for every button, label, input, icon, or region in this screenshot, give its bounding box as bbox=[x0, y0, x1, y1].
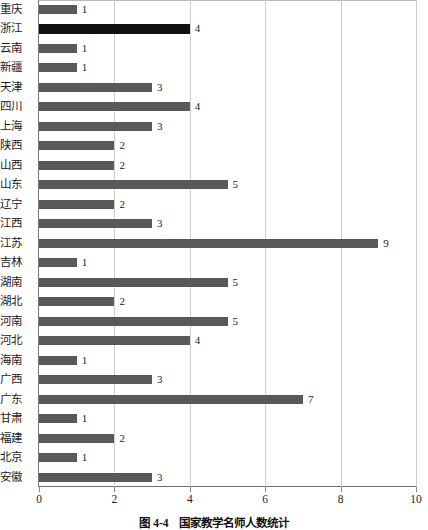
bar-row: 新疆1 bbox=[0, 58, 428, 78]
bar-江西 bbox=[39, 219, 152, 228]
category-label-北京: 北京 bbox=[0, 448, 34, 468]
bar-row: 福建2 bbox=[0, 429, 428, 449]
bar-value-陕西: 2 bbox=[119, 136, 125, 156]
category-label-河南: 河南 bbox=[0, 312, 34, 332]
category-label-山东: 山东 bbox=[0, 175, 34, 195]
category-label-云南: 云南 bbox=[0, 39, 34, 59]
x-tick-mark-8 bbox=[341, 487, 342, 492]
category-label-江苏: 江苏 bbox=[0, 234, 34, 254]
bar-湖北 bbox=[39, 297, 114, 306]
bar-row: 辽宁2 bbox=[0, 195, 428, 215]
bar-甘肃 bbox=[39, 414, 77, 423]
bar-value-天津: 3 bbox=[157, 78, 163, 98]
bar-row: 上海3 bbox=[0, 117, 428, 137]
x-tick-label-6: 6 bbox=[253, 493, 277, 505]
bar-row: 江西3 bbox=[0, 214, 428, 234]
bar-value-海南: 1 bbox=[82, 351, 88, 371]
x-axis: 0246810 bbox=[0, 487, 428, 513]
bar-重庆 bbox=[39, 5, 77, 14]
bar-value-安徽: 3 bbox=[157, 468, 163, 488]
category-label-辽宁: 辽宁 bbox=[0, 195, 34, 215]
bar-value-河南: 5 bbox=[233, 312, 239, 332]
bar-四川 bbox=[39, 102, 190, 111]
bar-value-河北: 4 bbox=[195, 331, 201, 351]
bar-广西 bbox=[39, 375, 152, 384]
bar-row: 重庆1 bbox=[0, 0, 428, 20]
bar-row: 湖南5 bbox=[0, 273, 428, 293]
bar-辽宁 bbox=[39, 200, 114, 209]
category-label-四川: 四川 bbox=[0, 97, 34, 117]
bar-row: 河北4 bbox=[0, 331, 428, 351]
bar-row: 安徽3 bbox=[0, 468, 428, 488]
bar-row: 云南1 bbox=[0, 39, 428, 59]
bar-row: 四川4 bbox=[0, 97, 428, 117]
bar-上海 bbox=[39, 122, 152, 131]
category-label-山西: 山西 bbox=[0, 156, 34, 176]
category-label-天津: 天津 bbox=[0, 78, 34, 98]
bar-云南 bbox=[39, 44, 77, 53]
category-label-广西: 广西 bbox=[0, 370, 34, 390]
bar-吉林 bbox=[39, 258, 77, 267]
bar-河北 bbox=[39, 336, 190, 345]
bar-value-江西: 3 bbox=[157, 214, 163, 234]
category-label-湖北: 湖北 bbox=[0, 292, 34, 312]
x-tick-mark-10 bbox=[416, 487, 417, 492]
x-tick-label-4: 4 bbox=[178, 493, 202, 505]
bar-广东 bbox=[39, 395, 303, 404]
category-label-上海: 上海 bbox=[0, 117, 34, 137]
bar-chart-figure: 重庆1浙江4云南1新疆1天津3四川4上海3陕西2山西2山东5辽宁2江西3江苏9吉… bbox=[0, 0, 428, 530]
bar-河南 bbox=[39, 317, 228, 326]
bar-row: 陕西2 bbox=[0, 136, 428, 156]
category-label-江西: 江西 bbox=[0, 214, 34, 234]
category-label-新疆: 新疆 bbox=[0, 58, 34, 78]
x-tick-mark-2 bbox=[114, 487, 115, 492]
bar-value-福建: 2 bbox=[119, 429, 125, 449]
category-label-浙江: 浙江 bbox=[0, 19, 34, 39]
x-tick-label-2: 2 bbox=[102, 493, 126, 505]
bar-row: 山西2 bbox=[0, 156, 428, 176]
bar-北京 bbox=[39, 453, 77, 462]
bar-row: 吉林1 bbox=[0, 253, 428, 273]
bar-row: 海南1 bbox=[0, 351, 428, 371]
category-label-安徽: 安徽 bbox=[0, 468, 34, 488]
bar-江苏 bbox=[39, 239, 378, 248]
bar-浙江 bbox=[39, 24, 190, 34]
category-label-陕西: 陕西 bbox=[0, 136, 34, 156]
category-label-海南: 海南 bbox=[0, 351, 34, 371]
bar-row: 北京1 bbox=[0, 448, 428, 468]
bar-value-山东: 5 bbox=[233, 175, 239, 195]
bar-value-湖北: 2 bbox=[119, 292, 125, 312]
bar-value-四川: 4 bbox=[195, 97, 201, 117]
x-tick-mark-4 bbox=[190, 487, 191, 492]
category-label-吉林: 吉林 bbox=[0, 253, 34, 273]
bar-海南 bbox=[39, 356, 77, 365]
category-label-河北: 河北 bbox=[0, 331, 34, 351]
bar-row: 天津3 bbox=[0, 78, 428, 98]
x-tick-label-0: 0 bbox=[27, 493, 51, 505]
figure-title: 国家教学名师人数统计 bbox=[179, 517, 289, 529]
figure-number: 图 4-4 bbox=[139, 517, 168, 529]
x-tick-mark-0 bbox=[39, 487, 40, 492]
bar-row: 湖北2 bbox=[0, 292, 428, 312]
bar-value-广西: 3 bbox=[157, 370, 163, 390]
bar-山西 bbox=[39, 161, 114, 170]
bar-陕西 bbox=[39, 141, 114, 150]
x-tick-label-10: 10 bbox=[404, 493, 428, 505]
category-label-重庆: 重庆 bbox=[0, 0, 34, 20]
x-tick-mark-6 bbox=[265, 487, 266, 492]
bar-row: 甘肃1 bbox=[0, 409, 428, 429]
bar-山东 bbox=[39, 180, 228, 189]
bar-value-广东: 7 bbox=[308, 390, 314, 410]
bar-value-浙江: 4 bbox=[195, 19, 201, 39]
bar-row: 广东7 bbox=[0, 390, 428, 410]
bar-row: 河南5 bbox=[0, 312, 428, 332]
bar-row: 江苏9 bbox=[0, 234, 428, 254]
bar-value-山西: 2 bbox=[119, 156, 125, 176]
bar-row: 广西3 bbox=[0, 370, 428, 390]
bar-value-辽宁: 2 bbox=[119, 195, 125, 215]
bar-value-吉林: 1 bbox=[82, 253, 88, 273]
category-label-广东: 广东 bbox=[0, 390, 34, 410]
bar-row: 浙江4 bbox=[0, 19, 428, 39]
bar-value-北京: 1 bbox=[82, 448, 88, 468]
category-label-福建: 福建 bbox=[0, 429, 34, 449]
